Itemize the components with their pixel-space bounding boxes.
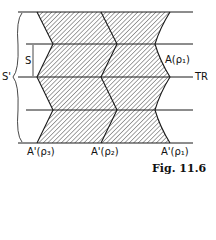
s-prime-label: S' [2, 72, 11, 82]
a-prime-rho3-label: A'(ρ₃) [27, 147, 55, 157]
tr-label: TR [195, 72, 208, 82]
a-prime-rho2-label: A'(ρ₂) [91, 147, 119, 157]
figure-caption: Fig. 11.6 [152, 162, 206, 175]
a-prime-rho1-label: A'(ρ₁) [161, 147, 189, 157]
a-rho1-label: A(ρ₁) [165, 55, 190, 65]
s-label: S [25, 56, 31, 66]
